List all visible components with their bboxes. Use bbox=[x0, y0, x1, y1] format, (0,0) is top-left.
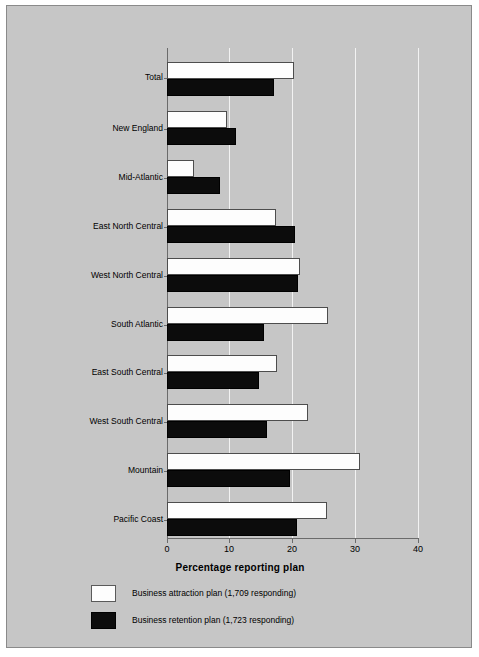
bar-attraction-south-atlantic bbox=[167, 307, 328, 324]
category-label-new-england: New England bbox=[112, 123, 163, 133]
bar-attraction-west-north-central bbox=[167, 258, 300, 275]
xtick-label-30: 30 bbox=[350, 544, 360, 554]
category-label-west-south-central: West South Central bbox=[89, 416, 163, 426]
bar-attraction-mountain bbox=[167, 453, 360, 470]
legend-label-retention: Business retention plan (1,723 respondin… bbox=[132, 615, 294, 625]
category-label-east-north-central: East North Central bbox=[93, 221, 163, 231]
legend-swatch-attraction bbox=[91, 585, 116, 602]
category-label-south-atlantic: South Atlantic bbox=[111, 319, 163, 329]
xtick-mark-40 bbox=[418, 538, 419, 543]
xtick-label-40: 40 bbox=[413, 544, 423, 554]
x-axis-title: Percentage reporting plan bbox=[7, 562, 473, 573]
bar-attraction-east-south-central bbox=[167, 355, 277, 372]
bar-attraction-total bbox=[167, 62, 294, 79]
legend-swatch-retention bbox=[91, 612, 116, 629]
bar-retention-west-south-central bbox=[167, 421, 267, 438]
category-label-mid-atlantic: Mid-Atlantic bbox=[119, 172, 163, 182]
bar-attraction-west-south-central bbox=[167, 404, 308, 421]
category-label-mountain: Mountain bbox=[128, 465, 163, 475]
bar-retention-east-south-central bbox=[167, 372, 259, 389]
xtick-label-20: 20 bbox=[287, 544, 297, 554]
xtick-mark-30 bbox=[355, 538, 356, 543]
xtick-label-10: 10 bbox=[224, 544, 234, 554]
xtick-mark-20 bbox=[292, 538, 293, 543]
bar-retention-mid-atlantic bbox=[167, 177, 220, 194]
chart-page: 0 10 20 30 40 Total New England Mid-Atla… bbox=[0, 0, 479, 657]
bar-attraction-east-north-central bbox=[167, 209, 276, 226]
x-axis-line bbox=[167, 538, 419, 539]
legend: Business attraction plan (1,709 respondi… bbox=[91, 583, 391, 639]
bar-retention-south-atlantic bbox=[167, 324, 264, 341]
bar-retention-west-north-central bbox=[167, 275, 298, 292]
bar-attraction-mid-atlantic bbox=[167, 160, 194, 177]
bar-retention-total bbox=[167, 79, 274, 96]
bar-retention-east-north-central bbox=[167, 226, 295, 243]
category-label-east-south-central: East South Central bbox=[92, 367, 163, 377]
xtick-mark-10 bbox=[229, 538, 230, 543]
bar-retention-mountain bbox=[167, 470, 290, 487]
xtick-mark-0 bbox=[167, 538, 168, 543]
bar-attraction-new-england bbox=[167, 111, 227, 128]
bar-retention-pacific-coast bbox=[167, 519, 297, 536]
xtick-label-0: 0 bbox=[164, 544, 169, 554]
figure-frame: 0 10 20 30 40 Total New England Mid-Atla… bbox=[6, 5, 472, 648]
category-label-west-north-central: West North Central bbox=[91, 270, 163, 280]
category-label-pacific-coast: Pacific Coast bbox=[113, 514, 163, 524]
category-label-total: Total bbox=[145, 72, 163, 82]
legend-label-attraction: Business attraction plan (1,709 respondi… bbox=[132, 588, 296, 598]
gridline-40 bbox=[418, 48, 419, 538]
category-labels: Total New England Mid-Atlantic East Nort… bbox=[7, 6, 163, 546]
bar-attraction-pacific-coast bbox=[167, 502, 327, 519]
bar-retention-new-england bbox=[167, 128, 236, 145]
